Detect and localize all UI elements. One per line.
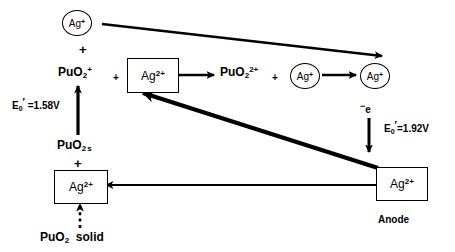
label-anode: Anode xyxy=(378,214,409,225)
potential-left: E0′ =1.58V xyxy=(12,97,60,112)
node-ag-plus-top[interactable]: Ag+ xyxy=(62,10,92,36)
node-ag-2plus-box-anode-label: Ag2+ xyxy=(390,177,414,191)
plus-sign-mid-2: + xyxy=(272,72,278,83)
node-ag-plus-mid[interactable]: Ag+ xyxy=(290,63,320,89)
plus-sign-left-lower: + xyxy=(74,156,82,171)
node-ag-plus-right-label: Ag+ xyxy=(367,71,383,82)
node-ag-2plus-box-mid-label: Ag2+ xyxy=(141,69,165,83)
node-puo2-2plus: PuO22+ xyxy=(220,66,258,80)
node-ag-plus-mid-label: Ag+ xyxy=(297,71,313,82)
potential-right: E0′=1.92V xyxy=(384,120,429,135)
node-puo2-solid: PuO2 solid xyxy=(40,231,104,245)
node-ag-plus-right[interactable]: Ag+ xyxy=(360,63,390,89)
node-ag-2plus-box-mid[interactable]: Ag2+ xyxy=(127,58,179,93)
plus-sign-mid-1: + xyxy=(113,72,119,83)
arrow-top-regeneration xyxy=(102,24,382,56)
plus-sign-top: + xyxy=(79,42,87,57)
node-ag-plus-top-label: Ag+ xyxy=(69,18,85,29)
node-ag-2plus-box-bottom[interactable]: Ag2+ xyxy=(54,170,108,204)
reaction-cycle-diagram: Ag+ + PuO2+ + Ag2+ PuO22+ + Ag+ Ag+ E0′ … xyxy=(0,0,455,252)
node-puo2-s: PuO2s xyxy=(57,139,92,153)
node-ag-2plus-box-bottom-label: Ag2+ xyxy=(69,180,93,194)
node-puo2-plus: PuO2+ xyxy=(58,66,92,80)
arrow-anode-to-ag2plus-mid xyxy=(143,93,378,168)
node-ag-2plus-box-anode[interactable]: Ag2+ xyxy=(376,167,428,201)
label-electron: −e xyxy=(360,101,371,115)
